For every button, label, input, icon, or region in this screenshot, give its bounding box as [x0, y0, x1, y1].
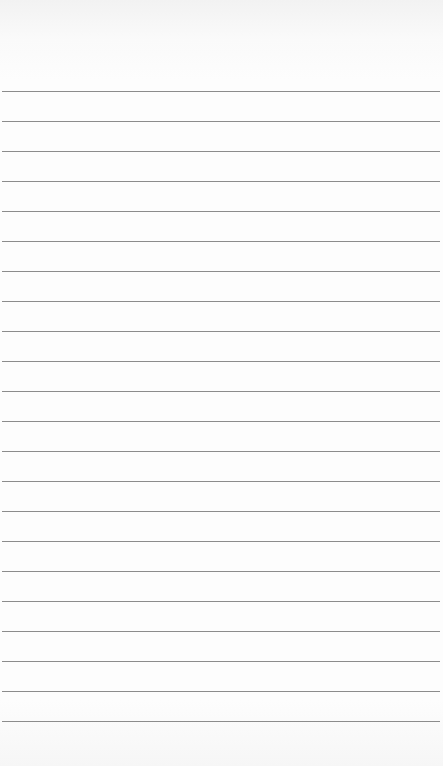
- ruled-line: [2, 511, 440, 512]
- ruled-line: [2, 211, 440, 212]
- ruled-line: [2, 721, 440, 722]
- ruled-line: [2, 331, 440, 332]
- ruled-line: [2, 181, 440, 182]
- ruled-line: [2, 391, 440, 392]
- ruled-line: [2, 91, 440, 92]
- ruled-line: [2, 571, 440, 572]
- ruled-line: [2, 361, 440, 362]
- ruled-line: [2, 301, 440, 302]
- ruled-line: [2, 271, 440, 272]
- ruled-line: [2, 121, 440, 122]
- ruled-line: [2, 691, 440, 692]
- ruled-line: [2, 631, 440, 632]
- ruled-line: [2, 661, 440, 662]
- ruled-line: [2, 151, 440, 152]
- ruled-line: [2, 481, 440, 482]
- lined-paper: [0, 0, 443, 766]
- ruled-line: [2, 241, 440, 242]
- ruled-line: [2, 421, 440, 422]
- ruled-line: [2, 541, 440, 542]
- ruled-line: [2, 601, 440, 602]
- ruled-line: [2, 451, 440, 452]
